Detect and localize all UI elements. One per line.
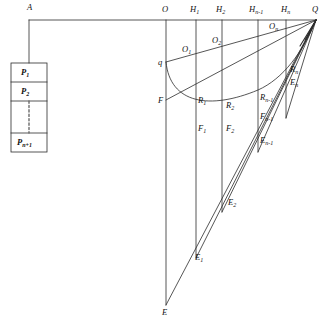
ray-Q-to-q xyxy=(166,20,316,62)
label-F1: F1 xyxy=(198,124,206,133)
array-cell-label-last: Pn+1 xyxy=(17,138,32,147)
label-Q: Q xyxy=(312,5,318,14)
label-E2: E2 xyxy=(228,198,236,207)
label-On: On xyxy=(269,22,278,31)
label-Rn: Rn xyxy=(290,65,298,74)
label-O2: O2 xyxy=(212,36,221,45)
label-H2: H2 xyxy=(216,5,225,14)
diagram-canvas xyxy=(0,0,325,330)
label-q: q xyxy=(158,58,162,67)
ray-Q-to-E xyxy=(166,20,316,305)
label-Hn-1: Hn-1 xyxy=(249,5,263,14)
label-Rn-1: Rn-1 xyxy=(260,93,273,102)
label-Fn-1: Fn-1 xyxy=(260,112,273,121)
label-En-1: En-1 xyxy=(260,136,273,145)
ray-Q-to-E1 xyxy=(196,20,316,258)
label-R1: R1 xyxy=(198,96,206,105)
label-O: O xyxy=(162,5,168,14)
label-Hn: Hn xyxy=(281,5,290,14)
label-E1: E1 xyxy=(195,253,203,262)
ray-Q-to-En-1 xyxy=(258,20,316,152)
label-O1: O1 xyxy=(182,45,191,54)
label-R2: R2 xyxy=(226,101,234,110)
array-cell-label-2: P2 xyxy=(21,87,29,96)
label-A: A xyxy=(27,3,32,12)
label-F: F xyxy=(158,96,163,105)
figure-container: A P1 P2 Pn+1 O H1 H2 Hn-1 Hn Q O1 O2 On … xyxy=(0,0,325,330)
array-cell-label-1: P1 xyxy=(21,68,29,77)
label-E: E xyxy=(162,308,167,317)
label-En: En xyxy=(290,78,298,87)
label-H1: H1 xyxy=(190,5,199,14)
label-F2: F2 xyxy=(226,124,234,133)
